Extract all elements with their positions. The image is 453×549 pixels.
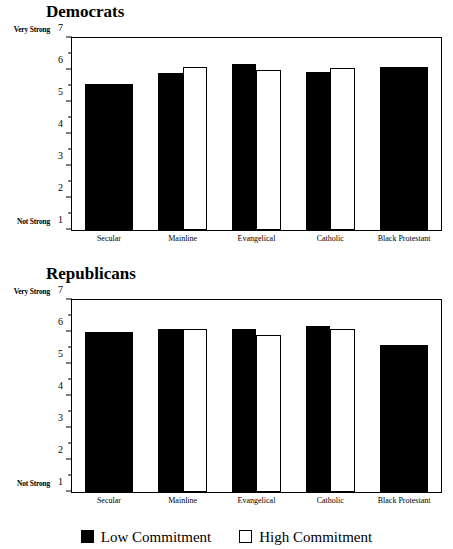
y-tick-label-5: 5 bbox=[58, 349, 63, 359]
x-tick-label: Catholic bbox=[293, 496, 367, 505]
x-tick-label: Black Protestant bbox=[367, 234, 441, 243]
y-tick-label-3: 3 bbox=[58, 413, 63, 423]
x-tick-label: Mainline bbox=[146, 234, 220, 243]
bar-high-commitment bbox=[330, 68, 354, 230]
bar-low-commitment bbox=[232, 64, 256, 230]
y-tick-label-7: 7 bbox=[58, 23, 63, 33]
plot-area-republicans: 7654321Very StrongNot Strong SecularMain… bbox=[71, 299, 442, 493]
y-tick-label-2: 2 bbox=[58, 445, 63, 455]
bar-group: Catholic bbox=[293, 38, 367, 230]
bar-low-commitment bbox=[232, 329, 256, 492]
chart-panel-democrats: Democrats Strength of Party Support 7654… bbox=[0, 0, 453, 262]
x-tick-label: Evangelical bbox=[220, 234, 294, 243]
x-tick-label: Black Protestant bbox=[367, 496, 441, 505]
bar-group: Catholic bbox=[293, 300, 367, 492]
x-tick-label: Mainline bbox=[146, 496, 220, 505]
bar-group: Black Protestant bbox=[367, 38, 441, 230]
y-anchor-label-very-strong: Very Strong bbox=[14, 26, 50, 34]
bars-republicans: SecularMainlineEvangelicalCatholicBlack … bbox=[72, 300, 441, 492]
y-anchor-label-very-strong: Very Strong bbox=[14, 288, 50, 296]
y-tick-label-5: 5 bbox=[58, 87, 63, 97]
filled-square-icon bbox=[81, 530, 94, 543]
chart-panel-republicans: Republicans Strength of Party Support 76… bbox=[0, 262, 453, 524]
bar-low-commitment bbox=[158, 73, 182, 230]
y-anchor-label-not-strong: Not Strong bbox=[17, 480, 50, 488]
bar-group: Mainline bbox=[146, 38, 220, 230]
bars-democrats: SecularMainlineEvangelicalCatholicBlack … bbox=[72, 38, 441, 230]
y-tick-label-2: 2 bbox=[58, 183, 63, 193]
y-tick-label-7: 7 bbox=[58, 285, 63, 295]
y-tick-label-6: 6 bbox=[58, 55, 63, 65]
bar-group: Black Protestant bbox=[367, 300, 441, 492]
bar-group: Secular bbox=[72, 300, 146, 492]
bar-high-commitment bbox=[183, 67, 207, 230]
bar-low-commitment bbox=[306, 72, 330, 230]
x-tick-label: Evangelical bbox=[220, 496, 294, 505]
y-tick-label-4: 4 bbox=[58, 381, 63, 391]
bar-low-commitment bbox=[85, 332, 134, 492]
bar-high-commitment bbox=[183, 329, 207, 492]
bar-group: Mainline bbox=[146, 300, 220, 492]
chart-legend: Low Commitment High Commitment bbox=[0, 524, 453, 549]
bar-group: Evangelical bbox=[220, 38, 294, 230]
y-tick-label-1: 1 bbox=[58, 477, 63, 487]
plot-area-democrats: 7654321Very StrongNot Strong SecularMain… bbox=[71, 37, 442, 231]
bar-group: Secular bbox=[72, 38, 146, 230]
bar-low-commitment bbox=[380, 345, 429, 492]
bar-low-commitment bbox=[306, 326, 330, 492]
bar-low-commitment bbox=[158, 329, 182, 492]
x-tick-label: Secular bbox=[72, 496, 146, 505]
bar-high-commitment bbox=[256, 70, 280, 230]
figure-strength-of-party-support: Democrats Strength of Party Support 7654… bbox=[0, 0, 453, 549]
hollow-square-icon bbox=[239, 530, 252, 543]
bar-high-commitment bbox=[256, 335, 280, 492]
y-anchor-label-not-strong: Not Strong bbox=[17, 218, 50, 226]
panel-title-democrats: Democrats bbox=[46, 2, 124, 21]
y-tick-label-6: 6 bbox=[58, 317, 63, 327]
bar-low-commitment bbox=[380, 67, 429, 230]
y-tick-label-1: 1 bbox=[58, 215, 63, 225]
legend-label-high-commitment: High Commitment bbox=[259, 529, 372, 545]
legend-item-high-commitment: High Commitment bbox=[239, 529, 372, 545]
bar-group: Evangelical bbox=[220, 300, 294, 492]
legend-label-low-commitment: Low Commitment bbox=[101, 529, 211, 545]
y-tick-label-4: 4 bbox=[58, 119, 63, 129]
bar-high-commitment bbox=[330, 329, 354, 492]
x-tick-label: Secular bbox=[72, 234, 146, 243]
legend-item-low-commitment: Low Commitment bbox=[81, 529, 211, 545]
bar-low-commitment bbox=[85, 84, 134, 230]
x-tick-label: Catholic bbox=[293, 234, 367, 243]
panel-title-republicans: Republicans bbox=[46, 264, 136, 283]
y-tick-label-3: 3 bbox=[58, 151, 63, 161]
